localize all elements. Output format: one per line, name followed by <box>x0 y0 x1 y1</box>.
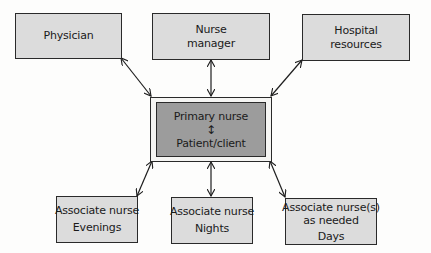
diagram-canvas: Physician Nurse manager Hospital resourc… <box>0 0 431 253</box>
node-label: Associate nurse <box>55 204 139 218</box>
center-label-primary-nurse: Primary nurse <box>174 110 248 123</box>
updown-arrow-icon: ↕ <box>206 124 216 136</box>
node-label: Physician <box>44 29 94 43</box>
node-label: as needed <box>303 214 358 227</box>
arrow-center-evenings <box>137 161 152 196</box>
node-associate-days: Associate nurse(s) as needed Days <box>285 198 377 245</box>
center-node-primary-nurse-patient: Primary nurse ↕ Patient/client <box>156 102 266 157</box>
node-label: Associate nurse(s) <box>282 201 380 214</box>
node-label: Nights <box>195 222 229 236</box>
arrow-center-days <box>270 161 285 197</box>
center-label-patient-client: Patient/client <box>176 137 245 150</box>
node-physician: Physician <box>15 13 122 59</box>
node-associate-evenings: Associate nurse Evenings <box>56 196 138 243</box>
node-label: Days <box>318 230 345 243</box>
node-label: Evenings <box>73 221 121 235</box>
arrow-hospital-center <box>271 60 302 96</box>
node-hospital-resources: Hospital resources <box>302 14 410 61</box>
node-label: Nurse <box>195 23 226 37</box>
node-label: manager <box>187 37 235 51</box>
arrow-physician-center <box>121 58 151 96</box>
node-nurse-manager: Nurse manager <box>152 13 270 60</box>
node-label: Hospital <box>334 24 377 38</box>
node-label: Associate nurse <box>170 205 254 219</box>
node-label: resources <box>330 38 382 52</box>
node-associate-nights: Associate nurse Nights <box>171 197 253 244</box>
